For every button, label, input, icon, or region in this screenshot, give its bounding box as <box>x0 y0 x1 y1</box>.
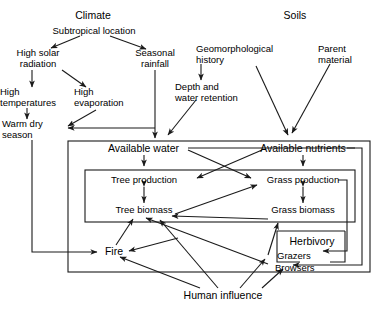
link-solar-to-evaporation <box>62 70 86 87</box>
node-tree-biomass: Tree biomass <box>101 205 187 216</box>
node-high-solar-radiation: High solar radiation <box>6 48 70 69</box>
link-grass-biomass-to-tree-biomass <box>172 216 268 219</box>
link-human-to-tree-biomass <box>160 220 218 288</box>
link-evaporation-to-warmdry <box>68 110 96 126</box>
node-tree-production: Tree production <box>97 175 191 186</box>
heading-soils: Soils <box>267 10 323 21</box>
link-grassbiomass-to-fire <box>129 238 178 251</box>
heading-climate: Climate <box>63 10 123 21</box>
link-depth-to-water <box>168 100 196 135</box>
node-grass-biomass: Grass biomass <box>259 205 347 216</box>
node-browsers: Browsers <box>275 263 327 274</box>
node-geomorphological-history: Geomorphological history <box>196 44 308 65</box>
link-water-to-grass-production <box>188 150 251 178</box>
node-depth-and-water-retention: Depth and water retention <box>175 82 261 103</box>
node-herbivory: Herbivory <box>281 236 343 247</box>
node-human-influence: Human influence <box>168 290 278 301</box>
link-parent-to-nutrients <box>292 64 330 133</box>
link-human-to-grazers <box>240 259 265 288</box>
node-grazers: Grazers <box>277 251 323 262</box>
node-high-temperatures: High temperatures <box>0 87 72 108</box>
node-warm-dry-season: Warm dry season <box>2 119 64 140</box>
node-parent-material: Parent material <box>318 44 374 65</box>
node-available-nutrients: Available nutrients <box>248 143 358 154</box>
link-tree-biomass-to-grass-production <box>175 185 257 214</box>
node-seasonal-rainfall: Seasonal rainfall <box>124 48 186 69</box>
link-warmdry-to-fire <box>32 140 97 252</box>
node-fire: Fire <box>99 246 129 257</box>
node-subtropical-location: Subtropical location <box>40 26 148 37</box>
node-high-evaporation: High evaporation <box>74 87 144 108</box>
link-nutrients-to-tree-production <box>197 150 262 178</box>
node-grass-production: Grass production <box>254 175 352 186</box>
link-fire-to-tree-biomass <box>116 219 133 245</box>
savanna-system-diagram: Climate Soils Subtropical location High … <box>0 0 383 315</box>
node-available-water: Available water <box>95 143 192 154</box>
